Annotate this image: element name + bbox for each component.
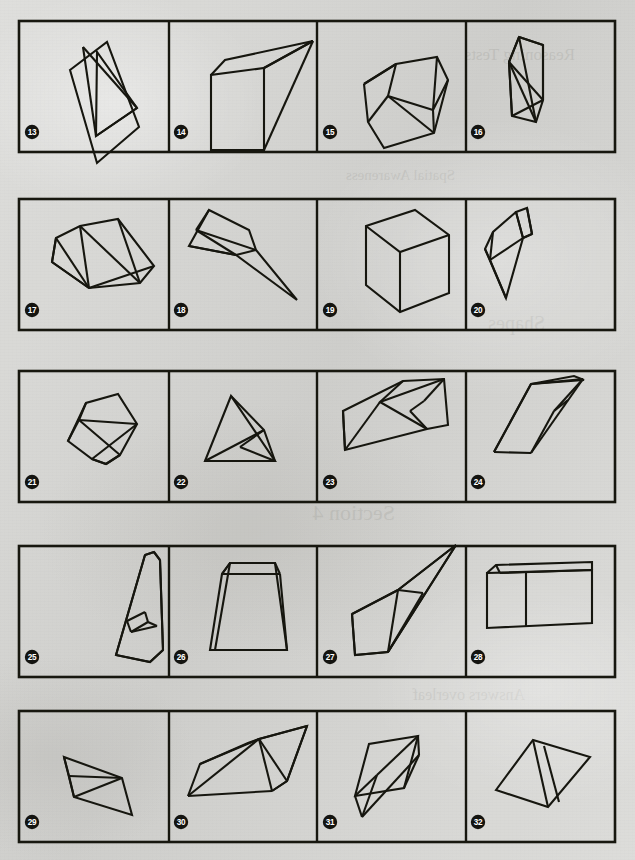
figure-number-label: 27 — [326, 653, 335, 662]
figure-panel-16[interactable]: 16 — [471, 37, 543, 139]
figure-number-badge-29: 29 — [25, 815, 39, 829]
figure-edge — [92, 424, 137, 459]
figure-edge — [116, 552, 163, 662]
figure-panel-21[interactable]: 21 — [25, 394, 137, 489]
figure-edge — [215, 563, 287, 650]
figure-edge — [145, 612, 148, 622]
figure-number-badge-20: 20 — [471, 303, 485, 317]
figure-edge — [154, 552, 160, 560]
figure-panel-17[interactable]: 17 — [25, 219, 154, 317]
figure-edge — [352, 590, 398, 614]
figure-panel-29[interactable]: 29 — [25, 757, 132, 829]
figure-drawing-32 — [496, 740, 590, 807]
figure-edge — [259, 726, 307, 739]
figure-sheet: 13 14 15 16 — [0, 0, 635, 860]
figure-edge — [368, 96, 388, 122]
figure-number-label: 24 — [474, 478, 483, 487]
figure-drawing-17 — [52, 219, 154, 288]
figure-edge — [388, 96, 434, 133]
figure-panel-25[interactable]: 25 — [25, 552, 163, 664]
figure-edge — [211, 68, 264, 150]
figure-number-badge-18: 18 — [174, 303, 188, 317]
figure-panel-27[interactable]: 27 — [323, 545, 456, 664]
figure-number-badge-16: 16 — [471, 125, 485, 139]
figure-panel-15[interactable]: 15 — [323, 57, 448, 148]
figure-number-label: 23 — [326, 478, 335, 487]
figure-edge — [496, 740, 590, 807]
figure-panel-32[interactable]: 32 — [471, 740, 590, 829]
figure-panel-24[interactable]: 24 — [471, 376, 584, 489]
figure-edge — [494, 452, 531, 453]
figure-edge — [516, 212, 523, 238]
figure-edge — [160, 560, 163, 650]
figure-edge — [52, 262, 89, 288]
figure-edge — [205, 430, 264, 461]
figure-edge — [343, 411, 345, 450]
figure-edge — [150, 650, 163, 662]
figure-edge — [70, 42, 139, 163]
figure-edge — [433, 110, 434, 133]
figure-edge — [96, 108, 137, 136]
figure-number-label: 25 — [28, 653, 37, 662]
figure-edge — [366, 210, 449, 312]
figure-number-badge-21: 21 — [25, 475, 39, 489]
figure-edge — [487, 570, 592, 628]
figure-number-label: 18 — [177, 306, 186, 315]
figure-panel-30[interactable]: 30 — [174, 726, 307, 829]
figure-edge — [116, 655, 150, 662]
figure-panel-19[interactable]: 19 — [323, 210, 449, 317]
figure-drawing-22 — [205, 396, 275, 461]
figure-edge — [418, 736, 419, 755]
figure-edge — [196, 210, 209, 230]
figure-number-label: 28 — [474, 653, 483, 662]
figure-drawing-14 — [211, 41, 313, 150]
figure-panel-28[interactable]: 28 — [471, 562, 592, 664]
figure-row-4: 25 26 27 28 — [19, 545, 615, 677]
figure-edge — [188, 791, 272, 796]
figure-panel-13[interactable]: 13 — [25, 42, 139, 163]
figure-edge — [106, 455, 120, 464]
figure-edge — [398, 590, 423, 593]
figure-number-badge-32: 32 — [471, 815, 485, 829]
figure-edge — [531, 379, 583, 453]
figure-number-label: 20 — [474, 306, 483, 315]
figure-drawing-25 — [116, 552, 163, 662]
figure-edge — [352, 614, 355, 655]
figure-edge — [259, 739, 272, 791]
figure-number-label: 30 — [177, 818, 186, 827]
figure-panel-26[interactable]: 26 — [174, 563, 287, 664]
figure-panel-18[interactable]: 18 — [174, 210, 297, 317]
figure-number-label: 22 — [177, 478, 186, 487]
figure-drawing-18 — [189, 210, 297, 300]
figure-edge — [366, 226, 449, 252]
figure-edge — [127, 621, 131, 632]
figure-edge — [355, 796, 362, 817]
figure-number-badge-26: 26 — [174, 650, 188, 664]
figure-edge — [554, 379, 583, 411]
figure-panel-22[interactable]: 22 — [174, 396, 275, 489]
figure-panel-14[interactable]: 14 — [174, 41, 313, 150]
figure-panel-31[interactable]: 31 — [323, 736, 419, 829]
figure-number-label: 17 — [28, 306, 37, 315]
figure-edge — [500, 570, 592, 573]
figure-number-label: 16 — [474, 128, 483, 137]
figure-edge — [509, 37, 519, 116]
figure-number-badge-13: 13 — [25, 125, 39, 139]
figure-row-3: 21 22 23 24 — [19, 371, 615, 502]
figure-panel-23[interactable]: 23 — [323, 379, 448, 489]
figure-edge — [189, 210, 297, 300]
figure-edge — [523, 234, 532, 238]
figure-panel-20[interactable]: 20 — [471, 208, 532, 317]
figure-edge — [531, 411, 554, 453]
figure-edge — [352, 545, 456, 655]
figure-edge — [79, 403, 120, 455]
figure-drawing-20 — [485, 208, 532, 298]
figure-number-badge-15: 15 — [323, 125, 337, 139]
figure-number-badge-22: 22 — [174, 475, 188, 489]
figure-number-badge-31: 31 — [323, 815, 337, 829]
figure-number-label: 32 — [474, 818, 483, 827]
figure-edge — [69, 776, 122, 778]
figure-edge — [92, 459, 106, 464]
figure-edge — [509, 62, 536, 122]
figure-number-label: 19 — [326, 306, 335, 315]
